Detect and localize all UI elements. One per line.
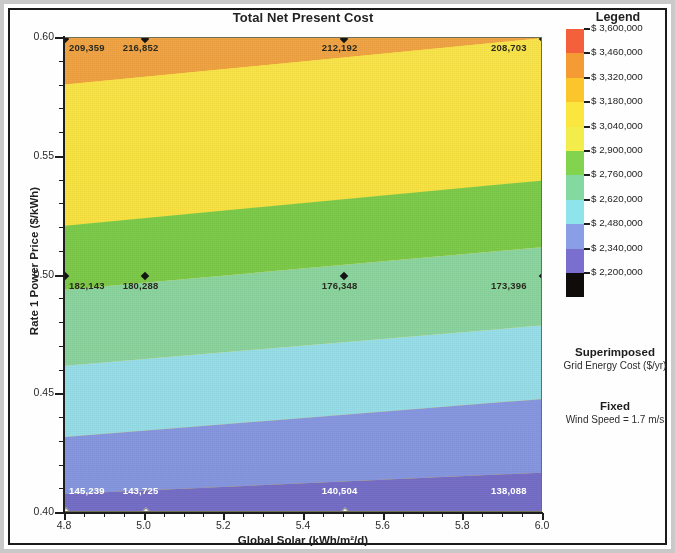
- legend-level-label: $ 2,200,000: [591, 266, 643, 277]
- x-axis-tick-label: 5.8: [455, 519, 470, 531]
- legend-colorbar: $ 3,600,000$ 3,460,000$ 3,320,000$ 3,180…: [566, 29, 668, 297]
- legend-color-swatch: [566, 78, 584, 102]
- fixed-heading: Fixed: [554, 400, 675, 412]
- legend-color-swatch: [566, 224, 584, 248]
- legend-tick: [584, 174, 590, 176]
- y-axis-tick: [55, 37, 64, 39]
- x-axis-minor-tick: [482, 513, 483, 517]
- y-axis-tick-label: 0.40: [8, 505, 54, 517]
- contour-plot-area[interactable]: 209,359216,852212,192208,703182,143180,2…: [64, 37, 542, 512]
- legend-color-swatch: [566, 127, 584, 151]
- legend-color-swatch: [566, 175, 584, 199]
- legend-tick: [584, 272, 590, 274]
- fixed-variable: Wind Speed = 1.7 m/s: [554, 414, 675, 425]
- legend-tick: [584, 199, 590, 201]
- legend-tick: [584, 150, 590, 152]
- x-axis-minor-tick: [403, 513, 404, 517]
- legend-tick: [584, 52, 590, 54]
- legend-color-swatch: [566, 53, 584, 77]
- superimposed-value-label: 180,288: [123, 280, 159, 291]
- x-axis-minor-tick: [104, 513, 105, 517]
- superimposed-block: Superimposed Grid Energy Cost ($/yr): [554, 346, 675, 371]
- x-axis-minor-tick: [323, 513, 324, 517]
- legend-row: $ 2,200,000: [566, 273, 668, 297]
- superimposed-variable: Grid Energy Cost ($/yr): [554, 360, 675, 371]
- x-axis-tick-label: 4.8: [57, 519, 72, 531]
- x-axis-title: Global Solar (kWh/m²/d): [64, 534, 542, 546]
- legend-color-swatch: [566, 273, 584, 297]
- x-axis-minor-tick: [343, 513, 344, 517]
- x-axis-minor-tick: [243, 513, 244, 517]
- chart-screenshot: Total Net Present Cost 209,359216,852212…: [0, 0, 675, 553]
- y-axis-minor-tick: [59, 346, 64, 347]
- x-axis-minor-tick: [84, 513, 85, 517]
- superimposed-heading: Superimposed: [554, 346, 675, 358]
- y-axis-minor-tick: [59, 441, 64, 442]
- x-axis-tick-label: 5.4: [296, 519, 311, 531]
- y-axis-minor-tick: [59, 227, 64, 228]
- y-axis-minor-tick: [59, 370, 64, 371]
- legend-tick: [584, 126, 590, 128]
- y-axis-minor-tick: [59, 417, 64, 418]
- x-axis-minor-tick: [502, 513, 503, 517]
- y-axis-minor-tick: [59, 322, 64, 323]
- legend-level-label: $ 3,040,000: [591, 120, 643, 131]
- x-axis-minor-tick: [164, 513, 165, 517]
- superimposed-value-label: 176,348: [322, 280, 358, 291]
- legend-color-swatch: [566, 102, 584, 126]
- y-axis-tick: [55, 512, 64, 514]
- legend-color-swatch: [566, 200, 584, 224]
- x-axis-minor-tick: [423, 513, 424, 517]
- x-axis-minor-tick: [363, 513, 364, 517]
- legend-level-label: $ 3,460,000: [591, 46, 643, 57]
- legend-color-swatch: [566, 29, 584, 53]
- x-axis-minor-tick: [283, 513, 284, 517]
- y-axis-minor-tick: [59, 251, 64, 252]
- y-axis-tick: [55, 393, 64, 395]
- superimposed-value-label: 140,504: [322, 485, 358, 496]
- x-axis-tick-label: 6.0: [535, 519, 550, 531]
- x-axis-minor-tick: [124, 513, 125, 517]
- superimposed-value-label: 208,703: [491, 42, 527, 53]
- y-axis-minor-tick: [59, 203, 64, 204]
- superimposed-value-label: 173,396: [491, 280, 527, 291]
- legend-color-swatch: [566, 249, 584, 273]
- y-axis-minor-tick: [59, 488, 64, 489]
- legend-level-label: $ 2,760,000: [591, 168, 643, 179]
- x-axis-minor-tick: [203, 513, 204, 517]
- x-axis-tick-label: 5.2: [216, 519, 231, 531]
- y-axis-minor-tick: [59, 180, 64, 181]
- y-axis-minor-tick: [59, 132, 64, 133]
- legend-tick: [584, 77, 590, 79]
- y-axis-title: Rate 1 Power Price ($/kWh): [28, 141, 40, 381]
- legend-tick: [584, 223, 590, 225]
- x-axis-tick-label: 5.6: [375, 519, 390, 531]
- y-axis-minor-tick: [59, 465, 64, 466]
- y-axis-minor-tick: [59, 61, 64, 62]
- superimposed-value-label: 145,239: [69, 485, 105, 496]
- legend-level-label: $ 3,320,000: [591, 71, 643, 82]
- contour-bands: [65, 38, 542, 512]
- y-axis-tick-label: 0.45: [8, 386, 54, 398]
- chart-title: Total Net Present Cost: [64, 10, 542, 25]
- x-axis-tick-label: 5.0: [136, 519, 151, 531]
- x-axis-minor-tick: [263, 513, 264, 517]
- legend-level-label: $ 3,180,000: [591, 95, 643, 106]
- legend-level-label: $ 2,340,000: [591, 242, 643, 253]
- y-axis-minor-tick: [59, 298, 64, 299]
- y-axis-minor-tick: [59, 108, 64, 109]
- superimposed-value-label: 138,088: [491, 485, 527, 496]
- x-axis-minor-tick: [184, 513, 185, 517]
- x-axis-minor-tick: [442, 513, 443, 517]
- superimposed-value-label: 143,725: [123, 485, 159, 496]
- superimposed-value-label: 216,852: [123, 42, 159, 53]
- y-axis-tick: [55, 275, 64, 277]
- legend-level-label: $ 2,900,000: [591, 144, 643, 155]
- legend-tick: [584, 248, 590, 250]
- superimposed-value-label: 209,359: [69, 42, 105, 53]
- legend-tick: [584, 28, 590, 30]
- y-axis-tick: [55, 156, 64, 158]
- y-axis-minor-tick: [59, 85, 64, 86]
- superimposed-value-label: 182,143: [69, 280, 105, 291]
- legend-level-label: $ 3,600,000: [591, 22, 643, 33]
